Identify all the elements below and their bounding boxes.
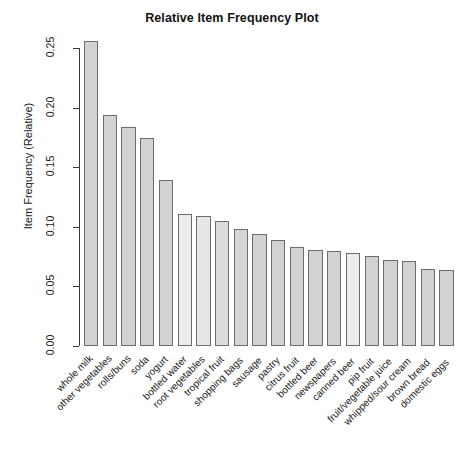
relative-item-frequency-plot: Relative Item Frequency Plot Item Freque… — [0, 0, 464, 462]
bar — [346, 253, 360, 346]
y-tick-label-wrap: 0.25 — [26, 41, 70, 55]
bar — [421, 269, 435, 346]
bar — [84, 41, 98, 346]
y-tick-label: 0.05 — [44, 265, 56, 305]
bar — [308, 250, 322, 346]
bar — [140, 138, 154, 346]
bar — [290, 247, 304, 346]
bar — [159, 180, 173, 346]
y-tick-label: 0.15 — [44, 146, 56, 186]
y-tick-mark — [73, 108, 79, 109]
bar — [234, 229, 248, 346]
bar — [121, 127, 135, 346]
plot-area — [80, 40, 459, 346]
bar — [215, 221, 229, 346]
bar — [383, 260, 397, 346]
y-tick-label-wrap: 0.20 — [26, 101, 70, 115]
y-tick-label: 0.25 — [44, 27, 56, 67]
y-tick-mark — [73, 227, 79, 228]
x-axis-labels: whole milkother vegetablesrolls/bunssoda… — [0, 347, 464, 462]
bar — [103, 115, 117, 346]
bar — [327, 251, 341, 346]
y-tick-label-wrap: 0.05 — [26, 279, 70, 293]
bar — [252, 234, 266, 346]
bar — [365, 256, 379, 346]
y-tick-label: 0.10 — [44, 206, 56, 246]
y-tick-mark — [73, 167, 79, 168]
y-tick-mark — [73, 48, 79, 49]
y-tick-label-wrap: 0.10 — [26, 220, 70, 234]
y-tick-label: 0.20 — [44, 87, 56, 127]
bar — [402, 261, 416, 346]
bar — [196, 216, 210, 346]
bar — [178, 214, 192, 346]
bar — [439, 270, 453, 346]
y-tick-label-wrap: 0.15 — [26, 160, 70, 174]
bar — [271, 240, 285, 346]
y-tick-mark — [73, 286, 79, 287]
chart-title: Relative Item Frequency Plot — [0, 11, 464, 25]
